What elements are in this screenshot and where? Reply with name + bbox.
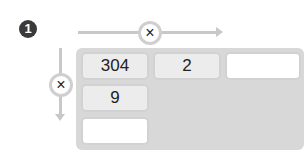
cell-top-2: 2: [153, 52, 221, 80]
arrow-down-icon: [55, 114, 65, 121]
problem-number-badge: 1: [19, 20, 37, 38]
cell-top-1: 304: [81, 52, 149, 80]
multiply-icon-vertical: ×: [49, 73, 73, 97]
multiply-icon-horizontal: ×: [138, 21, 162, 45]
cell-left-1: 9: [81, 84, 149, 112]
answer-cell-left-2[interactable]: [81, 117, 149, 145]
arrow-right-icon: [216, 27, 223, 37]
answer-cell-top-3[interactable]: [225, 52, 301, 80]
